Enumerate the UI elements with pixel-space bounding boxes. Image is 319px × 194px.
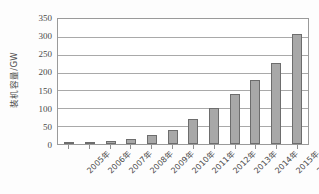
y-axis-title-label: 装机容量/GW — [7, 52, 19, 108]
y-axis-tick-label: 200 — [22, 67, 52, 77]
y-axis-tick-label: 250 — [22, 49, 52, 59]
x-axis-tick-labels: 2005年2006年2007年2008年2009年2010年2011年2012年… — [57, 149, 309, 193]
bar[interactable] — [250, 80, 260, 144]
bar[interactable] — [209, 108, 219, 144]
bar-slot — [142, 19, 163, 144]
bar-slot — [121, 19, 142, 144]
bar-slot — [204, 19, 225, 144]
y-axis-tick-label: 350 — [22, 13, 52, 23]
bar-slot — [59, 19, 80, 144]
bar-slot — [80, 19, 101, 144]
bar[interactable] — [188, 119, 198, 144]
bar-slot — [100, 19, 121, 144]
y-axis-tick-labels: 050100150200250300350 — [22, 13, 52, 145]
bar[interactable] — [126, 139, 136, 144]
bar-chart-figure: 装机容量/GW 050100150200250300350 2005年2006年… — [0, 0, 319, 194]
bar[interactable] — [230, 94, 240, 144]
bar[interactable] — [292, 34, 302, 144]
bars-layer — [58, 19, 308, 144]
bar[interactable] — [168, 130, 178, 144]
bar-slot — [183, 19, 204, 144]
bar[interactable] — [271, 63, 281, 144]
bar-slot — [162, 19, 183, 144]
bar-slot — [224, 19, 245, 144]
bar-slot — [286, 19, 307, 144]
bar-slot — [266, 19, 287, 144]
plot-area — [57, 18, 309, 145]
bar[interactable] — [106, 141, 116, 144]
bar[interactable] — [85, 142, 95, 144]
y-axis-tick-label: 300 — [22, 31, 52, 41]
bar[interactable] — [147, 135, 157, 144]
y-axis-tick-label: 100 — [22, 104, 52, 114]
bar[interactable] — [64, 142, 74, 144]
bar-slot — [245, 19, 266, 144]
y-axis-tick-label: 0 — [22, 140, 52, 150]
y-axis-title: 装机容量/GW — [6, 26, 20, 134]
y-axis-tick-label: 150 — [22, 86, 52, 96]
y-axis-tick-label: 50 — [22, 122, 52, 132]
